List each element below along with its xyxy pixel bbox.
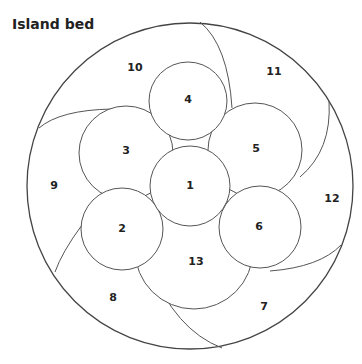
arc-11-12	[300, 101, 329, 177]
region-label-10: 10	[127, 61, 143, 74]
region-label-5: 5	[252, 142, 260, 155]
region-label-6: 6	[255, 220, 263, 233]
region-label-2: 2	[118, 222, 126, 235]
region-label-1: 1	[186, 179, 194, 192]
region-label-8: 8	[109, 291, 117, 304]
region-label-9: 9	[50, 179, 58, 192]
region-label-11: 11	[266, 65, 281, 78]
arc-8-9	[55, 225, 82, 272]
region-label-13: 13	[188, 255, 203, 268]
island-bed-diagram: 1 2 3 4 5 6 7 8 9 10 11 12 13	[0, 0, 362, 364]
region-label-3: 3	[122, 144, 130, 157]
region-label-7: 7	[260, 300, 268, 313]
region-label-4: 4	[184, 93, 192, 106]
region-label-12: 12	[324, 192, 339, 205]
